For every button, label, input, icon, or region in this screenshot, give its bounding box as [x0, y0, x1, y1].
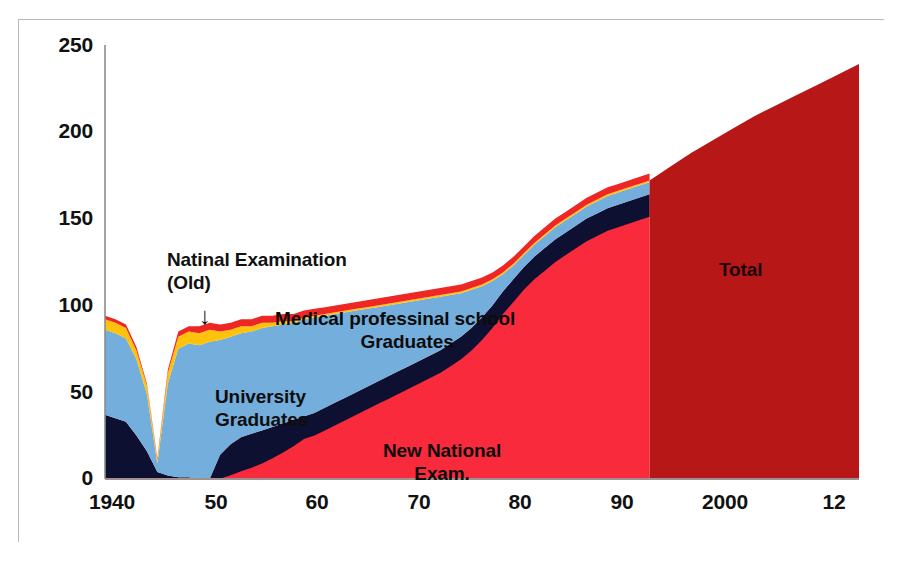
x-tick-2000: 2000: [675, 490, 775, 514]
annotation-newnational-line1: New National: [383, 440, 501, 461]
annotation-national-exam-old-line1: Natinal Examination: [167, 249, 347, 270]
annotation-newnational-line2: Exam.: [383, 462, 501, 485]
annotation-total: Total: [719, 258, 762, 281]
annotation-university-graduates: UniversityGraduates: [215, 385, 308, 431]
y-tick-150: 150: [25, 206, 93, 230]
y-tick-200: 200: [25, 119, 93, 143]
y-tick-250: 250: [25, 33, 93, 57]
x-tick-90: 90: [577, 490, 667, 514]
annotation-new-national-exam: New NationalExam.: [383, 439, 501, 485]
figure-frame: 250 200 150 100 50 0 1940 50 60 70 80 90…: [18, 19, 884, 542]
y-tick-0: 0: [25, 466, 93, 490]
annotation-national-exam-old: Natinal Examination(Old): [167, 248, 347, 294]
x-tick-50: 50: [171, 490, 261, 514]
annotation-medschool-line1: Medical professinal school: [275, 308, 515, 329]
x-tick-60: 60: [272, 490, 362, 514]
x-tick-12: 12: [794, 490, 874, 514]
annotation-national-exam-old-line2: (Old): [167, 272, 211, 293]
x-tick-70: 70: [374, 490, 464, 514]
down-arrow-icon: ↓: [199, 304, 211, 328]
x-tick-1940: 1940: [67, 490, 157, 514]
annotation-medical-professional-school: Medical professinal schoolGraduates: [275, 307, 515, 353]
chart-page: 250 200 150 100 50 0 1940 50 60 70 80 90…: [0, 0, 902, 574]
y-tick-50: 50: [25, 380, 93, 404]
x-tick-80: 80: [475, 490, 565, 514]
y-tick-100: 100: [25, 293, 93, 317]
annotation-university-line1: University: [215, 386, 306, 407]
annotation-university-line2: Graduates: [215, 408, 308, 431]
annotation-medschool-line2: Graduates: [275, 330, 515, 353]
